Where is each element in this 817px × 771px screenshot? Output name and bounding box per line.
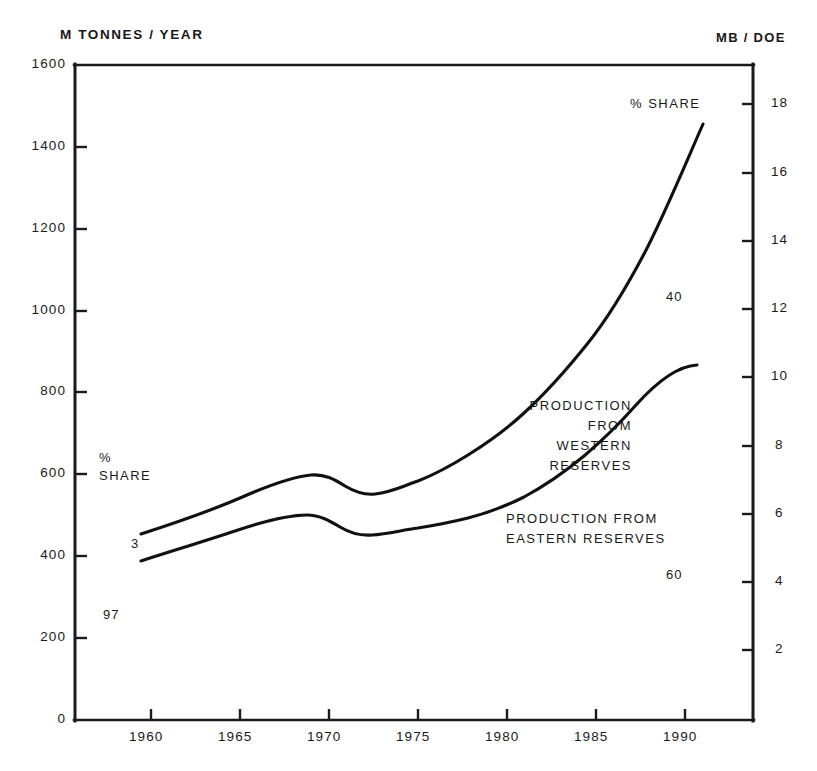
y-tick-label-1400: 1400 (8, 138, 66, 153)
x-tick-label-1980: 1980 (485, 729, 519, 744)
annotation-right-share-header: % SHARE (630, 94, 700, 114)
y2-tick-label-18: 18 (771, 95, 788, 110)
annotation-eastern-share-start-percent: 97 (103, 605, 120, 625)
chart-figure: M TONNES / YEAR MB / DOE 1600 1400 1200 … (0, 0, 817, 771)
western-series-label-line1: PRODUCTION (404, 396, 632, 416)
y-tick-label-200: 200 (8, 629, 66, 644)
left-axis-title: M TONNES / YEAR (60, 27, 204, 42)
y2-tick-label-2: 2 (775, 641, 784, 656)
annotation-eastern-series-label: PRODUCTION FROM EASTERN RESERVES (506, 509, 746, 549)
x-tick-label-1970: 1970 (307, 729, 341, 744)
y-tick-label-1000: 1000 (8, 302, 66, 317)
annotation-western-share-start-percent: 3 (131, 534, 139, 554)
y-tick-label-1600: 1600 (8, 56, 66, 71)
y-tick-label-1200: 1200 (8, 220, 66, 235)
y2-tick-label-16: 16 (771, 164, 788, 179)
x-tick-label-1975: 1975 (396, 729, 430, 744)
annotation-left-share-header-line1: % (99, 448, 112, 468)
axis-frame (74, 64, 754, 721)
y2-tick-label-4: 4 (775, 573, 784, 588)
y2-tick-label-6: 6 (775, 505, 784, 520)
y-tick-label-0: 0 (8, 711, 66, 726)
chart-plot-area (0, 0, 817, 771)
x-tick-label-1960: 1960 (129, 729, 163, 744)
x-tick-label-1985: 1985 (574, 729, 608, 744)
y-axis-ticks-left (75, 147, 87, 638)
eastern-series-label-line1: PRODUCTION FROM (506, 509, 746, 529)
y-tick-label-600: 600 (8, 465, 66, 480)
y2-tick-label-12: 12 (771, 300, 788, 315)
x-tick-label-1965: 1965 (218, 729, 252, 744)
y-tick-label-800: 800 (8, 383, 66, 398)
right-axis-title: MB / DOE (716, 30, 786, 45)
annotation-eastern-share-end-percent: 60 (666, 565, 683, 585)
x-tick-label-1990: 1990 (663, 729, 697, 744)
annotation-left-share-header-line2: SHARE (99, 466, 151, 486)
western-series-label-line4: RESERVES (404, 456, 632, 476)
annotation-western-series-label: PRODUCTION FROM WESTERN RESERVES (404, 396, 632, 476)
y-tick-label-400: 400 (8, 547, 66, 562)
western-series-label-line2: FROM (404, 416, 632, 436)
eastern-series-label-line2: EASTERN RESERVES (506, 529, 746, 549)
western-series-label-line3: WESTERN (404, 436, 632, 456)
y2-tick-label-14: 14 (771, 232, 788, 247)
y2-tick-label-10: 10 (771, 368, 788, 383)
y2-tick-label-8: 8 (775, 437, 784, 452)
annotation-western-share-end-percent: 40 (666, 287, 683, 307)
